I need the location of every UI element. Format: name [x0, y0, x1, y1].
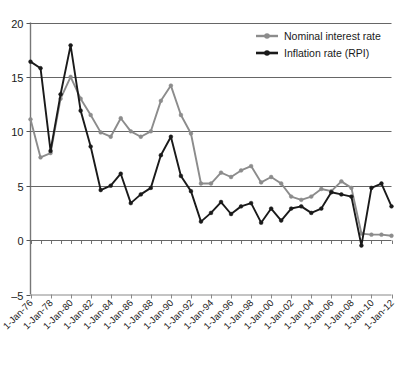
data-point [380, 233, 384, 237]
legend-label: Nominal interest rate [284, 30, 381, 42]
data-point [59, 92, 63, 96]
y-tick-label: 20 [11, 18, 23, 30]
data-point [289, 195, 293, 199]
data-point [149, 186, 153, 190]
data-point [199, 220, 203, 224]
chart-legend: Nominal interest rateInflation rate (RPI… [256, 30, 381, 59]
y-tick-label: –5 [11, 290, 23, 302]
x-tick-labels: 1-Jan-761-Jan-781-Jan-801-Jan-821-Jan-84… [1, 297, 396, 331]
data-point [119, 172, 123, 176]
data-point [169, 84, 173, 88]
y-tick-label: 0 [17, 235, 23, 247]
data-point [29, 60, 33, 64]
data-point [370, 233, 374, 237]
data-point [149, 129, 153, 133]
data-point [229, 212, 233, 216]
data-point [129, 129, 133, 133]
data-point [139, 193, 143, 197]
data-point [249, 201, 253, 205]
data-point [229, 175, 233, 179]
chart-container: –505101520 1-Jan-761-Jan-781-Jan-801-Jan… [0, 0, 400, 372]
data-point [89, 145, 93, 149]
data-point [39, 156, 43, 160]
data-point [360, 244, 364, 248]
data-point [269, 175, 273, 179]
data-point [29, 117, 33, 121]
y-axis: –505101520 [11, 18, 30, 302]
data-point [159, 153, 163, 157]
data-point [239, 169, 243, 173]
data-point [289, 207, 293, 211]
data-point [309, 195, 313, 199]
data-point [219, 171, 223, 175]
y-tick-label: 15 [11, 72, 23, 84]
data-point [259, 181, 263, 185]
legend-swatch-marker-2 [264, 50, 270, 56]
data-point [139, 135, 143, 139]
data-point [189, 132, 193, 136]
data-point [299, 204, 303, 208]
data-point [69, 75, 73, 79]
data-point [39, 66, 43, 70]
data-point [259, 221, 263, 225]
data-point [390, 204, 394, 208]
data-point [339, 179, 343, 183]
y-tick-label: 5 [17, 181, 23, 193]
data-point [309, 211, 313, 215]
data-point [129, 201, 133, 205]
data-point [339, 193, 343, 197]
series-line-2 [31, 45, 392, 245]
legend-label: Inflation rate (RPI) [284, 47, 369, 59]
data-point [119, 116, 123, 120]
data-point [349, 195, 353, 199]
data-point [159, 99, 163, 103]
data-point [370, 186, 374, 190]
data-point [279, 219, 283, 223]
data-point [109, 135, 113, 139]
data-point [349, 186, 353, 190]
data-point [179, 113, 183, 117]
data-point [299, 198, 303, 202]
data-point [269, 207, 273, 211]
legend-swatch-marker-1 [264, 33, 270, 39]
data-point [99, 188, 103, 192]
data-point [390, 234, 394, 238]
line-chart: –505101520 1-Jan-761-Jan-781-Jan-801-Jan… [0, 0, 400, 372]
data-point [99, 130, 103, 134]
data-point [329, 190, 333, 194]
data-point [319, 187, 323, 191]
data-point [319, 207, 323, 211]
data-point [109, 184, 113, 188]
data-point [279, 182, 283, 186]
data-point [89, 113, 93, 117]
data-point [249, 164, 253, 168]
data-point [189, 189, 193, 193]
series-lines [29, 43, 394, 247]
data-point [179, 174, 183, 178]
data-point [209, 182, 213, 186]
data-point [169, 135, 173, 139]
data-point [380, 182, 384, 186]
data-point [79, 109, 83, 113]
data-point [219, 200, 223, 204]
data-point [49, 149, 53, 153]
x-axis [31, 241, 393, 299]
data-point [199, 182, 203, 186]
data-point [69, 43, 73, 47]
data-point [209, 211, 213, 215]
data-point [239, 204, 243, 208]
y-tick-label: 10 [11, 126, 23, 138]
